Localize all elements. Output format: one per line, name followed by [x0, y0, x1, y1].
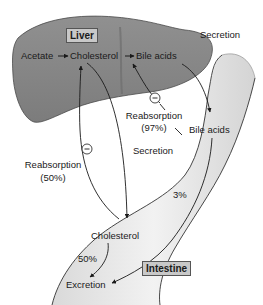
bile-excretion-pct: 3%	[173, 190, 187, 200]
inhibition-icon-cholesterol	[82, 144, 92, 154]
secretion-middle-label: Secretion	[133, 146, 173, 156]
bile-acids-intestine-label: Bile acids	[189, 125, 230, 135]
inhibition-icon-bileacid	[150, 93, 160, 103]
chol-excretion-pct: 50%	[78, 254, 97, 264]
reabsorption-chol-label: Reabsorption	[23, 160, 83, 170]
intestine-label: Intestine	[142, 261, 191, 276]
secretion-top-label: Secretion	[200, 30, 240, 40]
reabsorption-chol-pct: (50%)	[23, 173, 83, 183]
cholesterol-liver-label: Cholesterol	[70, 51, 118, 61]
liver-label: Liver	[66, 28, 98, 43]
acetate-label: Acetate	[21, 51, 53, 61]
cholesterol-intestine-label: Cholesterol	[91, 231, 139, 241]
excretion-label: Excretion	[66, 280, 106, 290]
diagram-graphics	[0, 0, 263, 305]
enterohepatic-circulation-diagram: Liver Acetate Cholesterol Bile acids Sec…	[0, 0, 263, 305]
reabsorption-bile-pct: (97%)	[124, 123, 184, 133]
reabsorption-bile-label: Reabsorption	[124, 111, 184, 121]
bile-acids-liver-label: Bile acids	[136, 51, 177, 61]
